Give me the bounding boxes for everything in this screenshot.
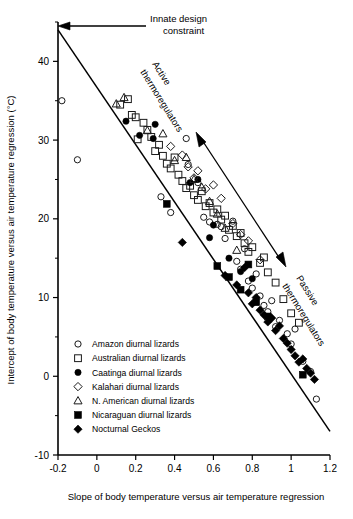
legend-marker-icon xyxy=(75,341,81,347)
data-point xyxy=(178,238,186,246)
data-point xyxy=(226,255,232,261)
data-point xyxy=(264,269,271,276)
legend-item[interactable]: Kalahari diurnal lizards xyxy=(74,382,179,392)
legend-label: Nicaraguan diurnal lizards xyxy=(92,410,191,420)
x-tick-label: 1 xyxy=(288,463,294,474)
data-point xyxy=(163,200,170,207)
y-tick-label: 30 xyxy=(38,135,50,146)
data-point xyxy=(280,296,287,303)
legend-item[interactable]: N. American diurnal lizards xyxy=(74,396,194,406)
innate-design-callout: Innate design constraint xyxy=(58,13,207,36)
data-point xyxy=(214,263,221,270)
chart-page: -10010203040 -0.200.20.40.60.811.2 Slope… xyxy=(0,0,353,519)
data-point xyxy=(313,396,319,402)
x-tick-label: 0.4 xyxy=(168,463,182,474)
y-tick-label: 0 xyxy=(43,371,49,382)
data-point xyxy=(152,148,159,155)
data-point xyxy=(249,276,255,282)
data-point xyxy=(159,130,167,137)
legend-marker-icon xyxy=(74,382,82,390)
data-point xyxy=(150,135,156,141)
y-tick-label: 20 xyxy=(38,213,50,224)
data-point xyxy=(160,152,167,159)
chart-legend: Amazon diurnal lizardsAustralian diurnal… xyxy=(74,339,194,434)
y-tick-label: 10 xyxy=(38,292,50,303)
x-axis-title: Slope of body temperature versus air tem… xyxy=(68,491,325,502)
x-tick-label: 0.6 xyxy=(206,463,220,474)
innate-design-label-line2: constraint xyxy=(163,25,205,36)
legend-label: Caatinga diurnal lizards xyxy=(92,368,182,378)
legend-item[interactable]: Nocturnal Geckos xyxy=(74,424,160,434)
x-axis-tick-labels: -0.200.20.40.60.811.2 xyxy=(49,463,337,474)
legend-marker-icon xyxy=(74,425,82,433)
legend-label: Nocturnal Geckos xyxy=(92,424,160,434)
scatter-plot: -10010203040 -0.200.20.40.60.811.2 Slope… xyxy=(0,0,353,519)
data-point xyxy=(183,135,189,141)
callout-arrowhead-icon xyxy=(58,22,70,30)
data-point xyxy=(244,289,252,297)
data-point xyxy=(158,194,164,200)
data-point xyxy=(136,132,142,138)
data-point xyxy=(167,142,175,150)
legend-item[interactable]: Caatinga diurnal lizards xyxy=(75,368,182,378)
x-tick-label: 0.2 xyxy=(129,463,143,474)
legend-label: Amazon diurnal lizards xyxy=(92,339,179,349)
x-tick-label: -0.2 xyxy=(49,463,67,474)
series-australian-diurnal-lizards xyxy=(117,96,303,326)
legend-marker-icon xyxy=(75,412,82,419)
data-point xyxy=(233,246,241,253)
legend-item[interactable]: Nicaraguan diurnal lizards xyxy=(75,410,192,420)
data-point xyxy=(168,209,174,215)
data-point xyxy=(288,310,295,317)
data-point xyxy=(201,214,207,220)
data-point xyxy=(175,171,182,178)
active-thermoregulators-label: Active thermoregulators xyxy=(138,59,186,134)
data-point xyxy=(156,141,163,148)
data-point xyxy=(206,235,212,241)
data-point xyxy=(74,157,80,163)
legend-marker-icon xyxy=(75,355,82,362)
y-tick-label: -10 xyxy=(35,450,50,461)
data-point xyxy=(123,118,129,124)
data-point xyxy=(269,298,275,304)
data-point xyxy=(59,98,65,104)
innate-design-label-line1: Innate design xyxy=(150,13,207,24)
data-point xyxy=(194,167,202,175)
y-axis-title: Intercept of body temperature versus air… xyxy=(5,96,16,385)
legend-label: N. American diurnal lizards xyxy=(92,396,194,406)
legend-marker-icon xyxy=(75,369,81,375)
data-point xyxy=(171,156,179,163)
x-tick-label: 0.8 xyxy=(245,463,259,474)
legend-item[interactable]: Australian diurnal lizards xyxy=(75,353,186,363)
data-point xyxy=(234,258,240,264)
data-point xyxy=(292,326,298,332)
data-point xyxy=(222,235,228,241)
data-point xyxy=(143,126,151,133)
data-point xyxy=(179,178,186,185)
legend-item[interactable]: Amazon diurnal lizards xyxy=(75,339,179,349)
x-tick-label: 1.2 xyxy=(323,463,337,474)
x-tick-label: 0 xyxy=(94,463,100,474)
data-point xyxy=(217,194,225,202)
data-point xyxy=(272,279,279,286)
legend-marker-icon xyxy=(74,397,82,404)
legend-label: Kalahari diurnal lizards xyxy=(92,382,179,392)
data-point xyxy=(152,121,158,127)
y-axis-tick-labels: -10010203040 xyxy=(35,56,50,461)
data-point xyxy=(209,181,217,189)
legend-label: Australian diurnal lizards xyxy=(92,353,186,363)
series-caatinga-diurnal-lizards xyxy=(123,118,256,282)
y-tick-label: 40 xyxy=(38,56,50,67)
data-point xyxy=(299,371,306,378)
data-point xyxy=(210,222,216,228)
data-point xyxy=(140,119,147,126)
